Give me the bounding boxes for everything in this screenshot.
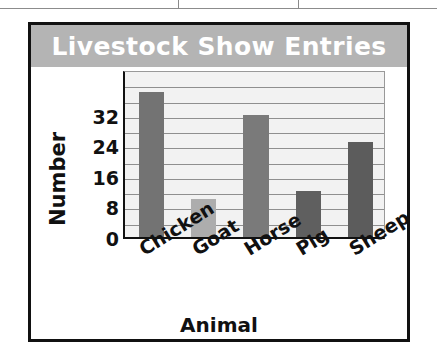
y-tick-label-8: 8 [75,199,119,218]
y-tick-label-0: 0 [75,230,119,249]
y-axis-title: Number [45,121,71,237]
x-axis-title: Animal [31,313,407,337]
chart-title-band: Livestock Show Entries [31,25,407,67]
bar-sheep [348,142,373,237]
x-axis-tick-labels: ChickenGoatHorsePigSheep [123,241,395,311]
y-axis-tick-labels: 08162432 [75,71,119,237]
bar-chicken [139,92,164,237]
y-tick-label-32: 32 [75,107,119,126]
bar-series [125,72,384,237]
chart-title: Livestock Show Entries [51,32,386,61]
y-tick-label-16: 16 [75,168,119,187]
y-axis-title-label: Number [46,132,70,226]
y-tick-label-24: 24 [75,138,119,157]
table-column-divider-1 [298,0,299,9]
bar-horse [243,115,268,237]
plot-area [123,71,385,239]
chart-figure: Livestock Show Entries Number 08162432 C… [28,22,410,342]
table-fragment-strip [0,0,437,9]
table-column-divider-0 [178,0,179,9]
